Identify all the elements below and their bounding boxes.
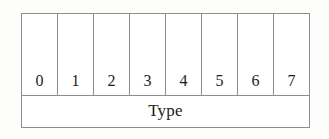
bit-label-0: 0 bbox=[22, 72, 57, 90]
bit-label-6: 6 bbox=[238, 72, 273, 90]
bit-cell-3: 3 bbox=[130, 14, 166, 95]
bit-label-7: 7 bbox=[274, 72, 309, 90]
bit-cell-7: 7 bbox=[274, 14, 309, 95]
bit-cell-5: 5 bbox=[202, 14, 238, 95]
bit-cell-4: 4 bbox=[166, 14, 202, 95]
bit-label-5: 5 bbox=[202, 72, 237, 90]
field-name-row: Type bbox=[22, 95, 309, 127]
bit-cell-0: 0 bbox=[22, 14, 58, 95]
bit-cell-2: 2 bbox=[94, 14, 130, 95]
bit-cell-1: 1 bbox=[58, 14, 94, 95]
field-name-label: Type bbox=[148, 101, 183, 122]
document-page: 0 1 2 3 4 5 6 7 Type bbox=[0, 0, 329, 139]
bit-label-2: 2 bbox=[94, 72, 129, 90]
bit-label-1: 1 bbox=[58, 72, 93, 90]
bit-field-table: 0 1 2 3 4 5 6 7 Type bbox=[21, 13, 310, 128]
bit-cell-6: 6 bbox=[238, 14, 274, 95]
bit-label-4: 4 bbox=[166, 72, 201, 90]
bit-label-3: 3 bbox=[130, 72, 165, 90]
bit-index-row: 0 1 2 3 4 5 6 7 bbox=[22, 14, 309, 95]
